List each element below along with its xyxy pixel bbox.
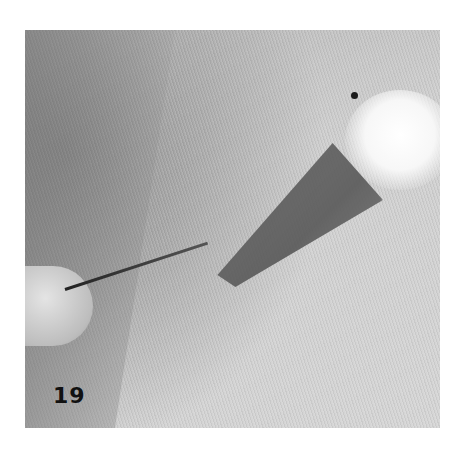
step-number-label: 19: [53, 383, 86, 408]
fabric-fold-shadow: [25, 30, 175, 428]
step-photo: [25, 30, 440, 428]
bead-eye: [351, 92, 358, 99]
